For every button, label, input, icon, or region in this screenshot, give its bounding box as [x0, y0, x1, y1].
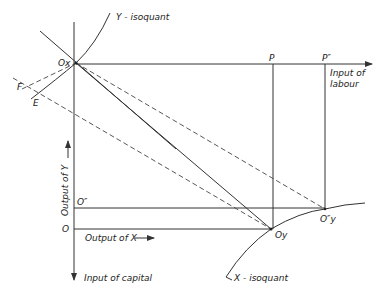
p-double-label: P″ [322, 53, 331, 63]
edgeworth-box-diagram: Y - isoquant Ox F E P P″ Input of labour… [0, 0, 381, 299]
output-y-label: Output of Y [60, 163, 70, 216]
tangent-line [40, 31, 176, 149]
input-labour-label-1: Input of [330, 68, 367, 78]
f-label: F [17, 82, 23, 92]
input-capital-label: Input of capital [84, 273, 152, 283]
oy-label: Oy [275, 230, 288, 240]
x-isoquant-curve [226, 203, 365, 277]
p-label: P [269, 53, 275, 63]
y-isoquant-label: Y - isoquant [116, 12, 170, 22]
e-label: E [33, 98, 39, 108]
oy-point [269, 227, 272, 230]
oy-double-label: O″y [320, 214, 336, 224]
o-label: O [62, 224, 69, 234]
dashed-ox-oy-double [76, 63, 325, 209]
dashed-f-oy [13, 78, 271, 229]
ox-label: Ox [58, 58, 71, 68]
o-double-label: O″ [77, 197, 88, 207]
input-labour-label-2: labour [330, 79, 360, 89]
y-isoquant-curve [31, 13, 110, 99]
output-x-label: Output of X [85, 233, 138, 243]
x-isoquant-label: X - isoquant [233, 273, 288, 283]
ox-point [74, 61, 77, 64]
x-isoquant-leader [226, 277, 232, 280]
oy-double-point [324, 208, 327, 211]
diagram-svg: Y - isoquant Ox F E P P″ Input of labour… [0, 0, 381, 299]
